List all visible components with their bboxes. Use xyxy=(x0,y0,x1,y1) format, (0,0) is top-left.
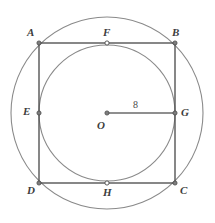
geometry-figure: A B C D E F G H O 8 xyxy=(0,0,215,223)
point-label-b: B xyxy=(172,27,179,38)
point-marker-c xyxy=(173,181,177,185)
point-marker-a xyxy=(37,41,41,45)
point-label-c: C xyxy=(180,185,187,196)
point-marker-g xyxy=(173,111,177,115)
point-marker-o xyxy=(105,111,109,115)
point-marker-e xyxy=(37,111,41,115)
point-marker-f xyxy=(105,41,109,45)
radius-length-label: 8 xyxy=(133,100,138,110)
point-marker-h xyxy=(105,181,109,185)
point-label-e: E xyxy=(23,106,30,117)
point-label-g: G xyxy=(181,107,189,118)
point-label-o: O xyxy=(97,120,105,131)
point-label-d: D xyxy=(27,185,35,196)
point-label-a: A xyxy=(27,27,34,38)
point-label-h: H xyxy=(103,187,112,198)
point-marker-b xyxy=(173,41,177,45)
point-marker-d xyxy=(37,181,41,185)
point-label-f: F xyxy=(103,27,110,38)
